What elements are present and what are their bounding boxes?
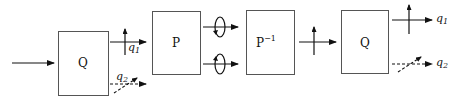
linear-beam-middle	[299, 27, 336, 55]
block-q-input-label: Q	[78, 56, 88, 70]
q2-output-first: q2	[110, 70, 146, 93]
block-p: P	[153, 12, 201, 75]
q1-output-last: q1	[392, 5, 448, 34]
block-q-output-label: Q	[360, 36, 370, 50]
block-p-label: P	[172, 36, 180, 50]
block-p-inverse: P−1	[247, 11, 295, 75]
q1-output-first: q1	[110, 29, 146, 55]
svg-text:q2: q2	[436, 56, 448, 70]
svg-text:q1: q1	[436, 12, 448, 26]
svg-text:q2: q2	[116, 70, 128, 84]
q2-output-last: q2	[392, 56, 448, 72]
circular-beam-lower	[203, 54, 238, 74]
svg-text:q1: q1	[128, 41, 140, 55]
optical-diagram: Q q1 q2 P P−1 Q	[0, 0, 459, 97]
circular-beam-upper	[203, 17, 238, 37]
block-q-input: Q	[59, 32, 109, 96]
block-q-output: Q	[342, 11, 389, 74]
